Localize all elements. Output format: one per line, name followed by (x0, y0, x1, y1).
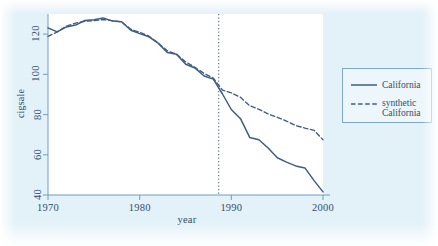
chart-legend: California synthetic California (342, 68, 432, 123)
legend-label-synthetic-california-line2: California (382, 108, 421, 119)
y-tick-label-120: 120 (30, 23, 41, 45)
y-tick-label-60: 60 (32, 143, 43, 165)
x-axis-ticks (48, 195, 323, 200)
x-tick-label-1980: 1980 (124, 202, 156, 213)
x-axis-title: year (169, 214, 205, 225)
x-tick-label-1970: 1970 (32, 202, 64, 213)
chart-page: 40 60 80 100 120 cigsale 1970 1980 1990 … (0, 0, 438, 246)
legend-label-california: California (382, 80, 421, 91)
y-axis-ticks (43, 34, 48, 195)
y-tick-label-80: 80 (32, 103, 43, 125)
plot-panel (48, 14, 323, 195)
y-axis-title: cigsale (15, 82, 26, 126)
synthetic-control-chart: 40 60 80 100 120 cigsale 1970 1980 1990 … (0, 0, 438, 246)
legend-label-synthetic-california-line1: synthetic (382, 98, 416, 109)
x-tick-label-1990: 1990 (215, 202, 247, 213)
x-tick-label-2000: 2000 (307, 202, 339, 213)
y-tick-label-100: 100 (30, 63, 41, 85)
